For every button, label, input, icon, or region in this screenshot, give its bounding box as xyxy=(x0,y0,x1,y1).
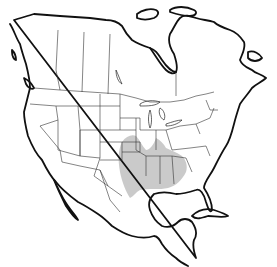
north-america-map xyxy=(0,0,277,267)
lake-erie xyxy=(166,120,182,126)
lake-huron xyxy=(159,108,165,120)
lake-superior xyxy=(140,101,160,106)
lake-michigan xyxy=(149,110,152,128)
lake-winnipeg xyxy=(116,70,122,84)
arctic-island-2 xyxy=(170,7,196,16)
arctic-island xyxy=(137,9,158,19)
haida-gwaii xyxy=(12,50,16,60)
range-map xyxy=(0,0,277,267)
newfoundland xyxy=(248,51,262,61)
species-range-area xyxy=(119,135,187,198)
